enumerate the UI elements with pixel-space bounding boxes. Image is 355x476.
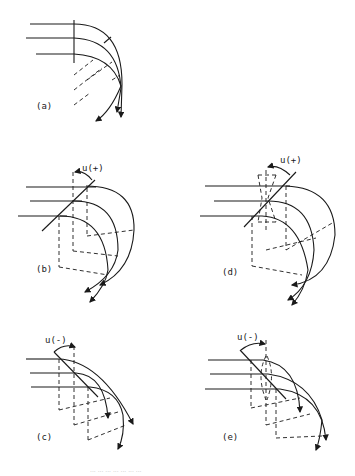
panel-e-label: (e) [222,432,238,442]
panel-b-label: (b) [36,264,52,274]
panel-c: u(-) (c) [26,335,133,449]
figure-caption-partial: ... ... ... ... ... ... ... [90,466,142,473]
panel-e-angle-label: u(-) [237,332,259,342]
panel-d-angle-label: u(+) [280,155,302,165]
panel-c-label: (c) [36,432,52,442]
panel-b: u(+) (b) [18,163,134,302]
panel-c-angle-label: u(-) [45,335,67,345]
ray-diagram-figure: (a) u(+) (b) [0,0,355,476]
panel-d: u(+) (d) [200,155,335,305]
panel-d-label: (d) [222,267,238,277]
panel-b-angle-label: u(+) [82,163,104,173]
panel-a-label: (a) [36,101,52,111]
panel-e: u(-) (e) [205,332,326,450]
panel-a: (a) [26,20,122,121]
